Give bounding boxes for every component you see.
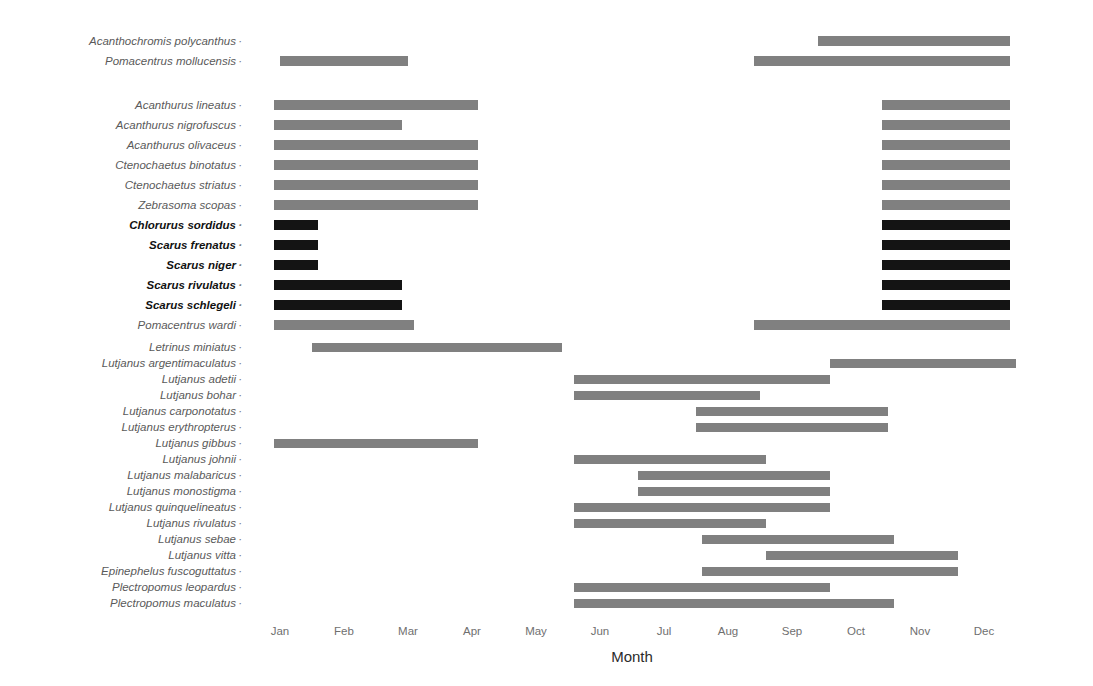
species-label: Lutjanus rivulatus· xyxy=(147,515,237,531)
y-axis-tick-dot: · xyxy=(238,97,242,113)
y-axis-tick-dot: · xyxy=(238,33,242,49)
species-row: Lutjanus rivulatus· xyxy=(0,515,1093,531)
species-label: Lutjanus johnii· xyxy=(162,451,236,467)
spawning-period-bar xyxy=(274,320,415,330)
species-row: Scarus schlegeli· xyxy=(0,297,1093,313)
spawning-period-bar xyxy=(882,200,1010,210)
spawning-period-bar xyxy=(818,36,1010,46)
species-label: Acanthurus lineatus· xyxy=(135,97,236,113)
y-axis-tick-dot: · xyxy=(238,563,242,579)
species-label: Acanthochromis polycanthus· xyxy=(89,33,236,49)
spawning-period-bar xyxy=(274,260,319,270)
spawning-period-bar xyxy=(882,300,1010,310)
spawning-period-bar xyxy=(882,240,1010,250)
species-row: Acanthurus lineatus· xyxy=(0,97,1093,113)
spawning-period-bar xyxy=(280,56,408,66)
spawning-period-bar xyxy=(882,280,1010,290)
spawning-period-bar xyxy=(274,439,479,448)
spawning-period-bar xyxy=(574,455,766,464)
y-axis-tick-dot: · xyxy=(238,177,242,193)
species-label: Plectropomus leopardus· xyxy=(112,579,236,595)
species-row: Lutjanus argentimaculatus· xyxy=(0,355,1093,371)
species-label: Ctenochaetus striatus· xyxy=(125,177,236,193)
spawning-period-bar xyxy=(274,280,402,290)
y-axis-tick-dot: · xyxy=(238,531,242,547)
y-axis-tick-dot: · xyxy=(238,257,242,273)
species-row: Lutjanus carponotatus· xyxy=(0,403,1093,419)
species-label: Scarus frenatus· xyxy=(149,237,236,253)
species-row: Lutjanus sebae· xyxy=(0,531,1093,547)
species-label: Chlorurus sordidus· xyxy=(129,217,236,233)
spawning-period-bar xyxy=(312,343,562,352)
x-axis-tick-mar: Mar xyxy=(378,625,438,637)
species-row: Acanthurus olivaceus· xyxy=(0,137,1093,153)
species-label: Plectropomus maculatus· xyxy=(110,595,236,611)
x-axis-tick-jun: Jun xyxy=(570,625,630,637)
species-label: Lutjanus vitta· xyxy=(168,547,236,563)
spawning-period-bar xyxy=(274,240,319,250)
y-axis-tick-dot: · xyxy=(238,515,242,531)
species-label: Lutjanus quinquelineatus· xyxy=(109,499,236,515)
y-axis-tick-dot: · xyxy=(238,595,242,611)
x-axis-tick-jul: Jul xyxy=(634,625,694,637)
x-axis-title: Month xyxy=(532,648,732,665)
spawning-period-bar xyxy=(702,567,958,576)
y-axis-tick-dot: · xyxy=(238,499,242,515)
spawning-period-bar xyxy=(574,599,894,608)
x-axis-tick-feb: Feb xyxy=(314,625,374,637)
y-axis-tick-dot: · xyxy=(238,403,242,419)
species-row: Lutjanus quinquelineatus· xyxy=(0,499,1093,515)
y-axis-tick-dot: · xyxy=(238,355,242,371)
spawning-period-bar xyxy=(574,503,830,512)
y-axis-tick-dot: · xyxy=(238,419,242,435)
species-row: Lutjanus bohar· xyxy=(0,387,1093,403)
species-label: Lutjanus adetii· xyxy=(162,371,236,387)
y-axis-tick-dot: · xyxy=(238,137,242,153)
species-label: Lutjanus malabaricus· xyxy=(127,467,236,483)
y-axis-tick-dot: · xyxy=(238,483,242,499)
species-row: Lutjanus monostigma· xyxy=(0,483,1093,499)
x-axis-tick-nov: Nov xyxy=(890,625,950,637)
y-axis-tick-dot: · xyxy=(238,317,242,333)
spawning-period-bar xyxy=(638,487,830,496)
y-axis-tick-dot: · xyxy=(238,451,242,467)
x-axis-tick-apr: Apr xyxy=(442,625,502,637)
spawning-period-bar xyxy=(274,200,479,210)
spawning-period-bar xyxy=(274,100,479,110)
spawning-period-bar xyxy=(574,391,760,400)
species-row: Lutjanus malabaricus· xyxy=(0,467,1093,483)
species-row: Ctenochaetus striatus· xyxy=(0,177,1093,193)
y-axis-tick-dot: · xyxy=(238,297,242,313)
species-label: Epinephelus fuscoguttatus· xyxy=(101,563,236,579)
species-label: Ctenochaetus binotatus· xyxy=(115,157,236,173)
x-axis-tick-jan: Jan xyxy=(250,625,310,637)
species-label: Lutjanus monostigma· xyxy=(127,483,236,499)
spawning-period-bar xyxy=(882,220,1010,230)
species-row: Lutjanus johnii· xyxy=(0,451,1093,467)
x-axis-tick-sep: Sep xyxy=(762,625,822,637)
spawning-period-bar xyxy=(638,471,830,480)
x-axis-tick-oct: Oct xyxy=(826,625,886,637)
x-axis-tick-dec: Dec xyxy=(954,625,1014,637)
y-axis-tick-dot: · xyxy=(238,237,242,253)
x-axis-tick-may: May xyxy=(506,625,566,637)
species-row: Plectropomus maculatus· xyxy=(0,595,1093,611)
spawning-period-bar xyxy=(702,535,894,544)
species-label: Pomacentrus mollucensis· xyxy=(105,53,236,69)
spawning-period-bar xyxy=(882,120,1010,130)
y-axis-tick-dot: · xyxy=(238,579,242,595)
spawning-period-bar xyxy=(882,160,1010,170)
species-label: Scarus schlegeli· xyxy=(145,297,236,313)
spawning-period-bar xyxy=(274,140,479,150)
species-label: Acanthurus olivaceus· xyxy=(127,137,236,153)
y-axis-tick-dot: · xyxy=(238,387,242,403)
spawning-period-bar xyxy=(274,160,479,170)
species-row: Pomacentrus wardi· xyxy=(0,317,1093,333)
species-row: Lutjanus gibbus· xyxy=(0,435,1093,451)
species-row: Lutjanus vitta· xyxy=(0,547,1093,563)
species-row: Acanthochromis polycanthus· xyxy=(0,33,1093,49)
y-axis-tick-dot: · xyxy=(238,197,242,213)
spawning-period-bar xyxy=(274,300,402,310)
species-row: Ctenochaetus binotatus· xyxy=(0,157,1093,173)
y-axis-tick-dot: · xyxy=(238,53,242,69)
